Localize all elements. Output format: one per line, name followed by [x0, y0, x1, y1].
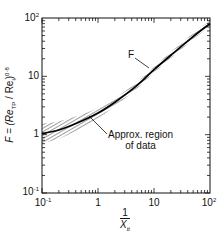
data-region-band: [42, 21, 210, 143]
x-label-numerator: 1: [120, 207, 130, 219]
annotation-region-line1: Approx. region: [108, 129, 173, 140]
y-tick-100: 102: [25, 13, 39, 23]
y-tick-10: 10: [28, 71, 39, 81]
y-tick-1: 1: [33, 129, 39, 139]
x-tick-0-1: 10-1: [35, 198, 51, 208]
annotation-region-line2: of data: [108, 140, 173, 151]
x-label-denominator: Xtt: [120, 219, 130, 235]
x-axis-label: 1 Xtt: [120, 207, 130, 235]
region-leader-line: [89, 116, 107, 134]
x-tick-10: 10: [148, 198, 159, 208]
chart-canvas: [0, 0, 223, 245]
x-tick-100: 102: [202, 198, 216, 208]
y-tick-0-1: 10-1: [23, 187, 39, 197]
f-curve: [42, 24, 210, 134]
y-axis-label: F = (ReTP / Rel)0·8: [4, 67, 17, 143]
annotation-f: F: [128, 49, 134, 60]
x-tick-1: 1: [95, 198, 101, 208]
f-leader-line: [135, 58, 149, 68]
annotation-region: Approx. region of data: [108, 129, 173, 151]
